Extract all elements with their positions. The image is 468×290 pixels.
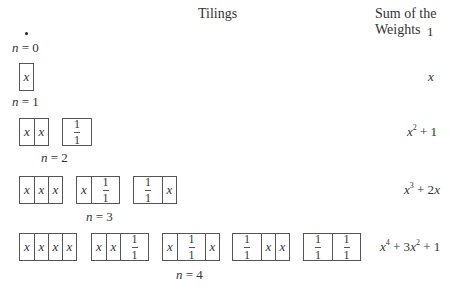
tiling-n3-2: x 11 [76, 176, 120, 204]
n0-label: n = 0 [12, 40, 39, 56]
square-cell: x [34, 177, 48, 203]
domino-pair: 11 [63, 119, 91, 145]
domino-pair: 11 [177, 234, 205, 260]
tiling-n4-1: x x x x [19, 233, 77, 261]
domino-pair: 11 [304, 234, 332, 260]
tiling-n4-5: 11 11 [303, 233, 361, 261]
tiling-n3-1: x x x [19, 176, 63, 204]
square-cell: x [20, 64, 33, 90]
square-cell: x [34, 234, 48, 260]
weight-n2: x2 + 1 [407, 124, 437, 140]
n3-label: n = 3 [86, 209, 113, 225]
tiling-n4-3: x 11 x [162, 233, 220, 261]
tiling-n2-2: 11 [62, 118, 92, 146]
tilings-header: Tilings [198, 6, 237, 22]
square-cell: x [20, 119, 34, 145]
weight-n0: 1 [427, 24, 434, 40]
square-cell: x [205, 234, 219, 260]
n4-label: n = 4 [176, 267, 203, 283]
domino-pair: 11 [233, 234, 261, 260]
domino-pair: 11 [134, 177, 162, 203]
weight-n1: x [428, 69, 434, 85]
tiling-n4-2: x x 11 [91, 233, 149, 261]
square-cell: x [162, 177, 176, 203]
square-cell: x [106, 234, 120, 260]
square-cell: x [261, 234, 275, 260]
n2-label: n = 2 [41, 150, 68, 166]
domino-pair: 11 [120, 234, 148, 260]
tiling-n3-3: 11 x [133, 176, 177, 204]
weights-header: Sum of the Weights [375, 6, 468, 38]
empty-tiling-dot [25, 32, 28, 35]
square-cell: x [92, 234, 106, 260]
tiling-n4-4: 11 x x [232, 233, 290, 261]
weight-n4: x4 + 3x2 + 1 [380, 239, 440, 255]
square-cell: x [20, 234, 34, 260]
square-cell: x [48, 234, 62, 260]
tiling-n1-1: x [19, 63, 34, 91]
weight-n3: x3 + 2x [404, 182, 440, 198]
n1-label: n = 1 [12, 94, 39, 110]
square-cell: x [20, 177, 34, 203]
square-cell: x [163, 234, 177, 260]
tiling-n2-1: x x [19, 118, 49, 146]
square-cell: x [275, 234, 289, 260]
domino-pair: 11 [332, 234, 360, 260]
square-cell: x [62, 234, 76, 260]
square-cell: x [77, 177, 91, 203]
square-cell: x [48, 177, 62, 203]
domino-pair: 11 [91, 177, 119, 203]
square-cell: x [34, 119, 48, 145]
